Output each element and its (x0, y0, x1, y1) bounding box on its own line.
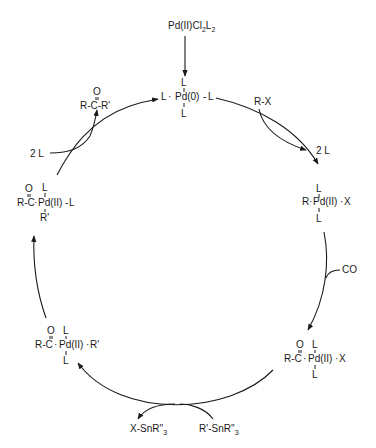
svg-text:·: · (335, 353, 338, 364)
precatalyst-label: Pd(II)Cl2L2 (168, 20, 215, 33)
stannane-exit-arrow (138, 404, 175, 419)
svg-text:Pd(II): Pd(II) (59, 339, 83, 350)
stannane-entry-line (180, 404, 213, 419)
svg-text:Pd(II): Pd(II) (313, 196, 337, 207)
svg-text:·: · (340, 196, 343, 207)
pd0-complex: L L · Pd(0) - L L (161, 77, 214, 119)
product-release-arrow (50, 110, 97, 153)
svg-text:L: L (181, 108, 187, 119)
ketone-product: O R-C-R' (80, 86, 110, 111)
svg-text:L: L (63, 355, 69, 366)
oxidative-addition-arrow (216, 98, 318, 164)
rx-entry-arrow (259, 109, 306, 150)
ligand-in-label: 2 L (30, 148, 44, 159)
svg-text:L: L (69, 197, 75, 208)
svg-text:L: L (316, 183, 322, 194)
svg-text:O: O (47, 325, 55, 336)
svg-text:-: - (203, 91, 206, 102)
svg-text:R': R' (90, 339, 99, 350)
acyl-palladium-halide: O L R-C · Pd(II) · X L (284, 339, 346, 380)
acyl-palladium-isomer: O L R-C · Pd(II) - L R' (17, 182, 75, 223)
svg-text:·: · (303, 353, 306, 364)
svg-text:L: L (312, 369, 318, 380)
co-entry-line (326, 270, 340, 278)
svg-text:·: · (309, 196, 312, 207)
svg-text:O: O (93, 86, 101, 97)
svg-text:L: L (312, 339, 318, 350)
svg-text:R'-SnR''3: R'-SnR''3 (199, 423, 239, 436)
svg-text:L: L (181, 77, 187, 88)
catalytic-cycle-diagram: Pd(II)Cl2L2 L L · Pd(0) - L L R-X 2 L L … (0, 0, 376, 448)
ligand-out-label: 2 L (316, 145, 330, 156)
acyl-palladium-alkyl: O L R-C · Pd(II) · R' L (35, 325, 99, 366)
svg-text:·: · (34, 197, 37, 208)
oxidative-addition-complex: L R · Pd(II) · X L (302, 183, 351, 224)
svg-text:R-C: R-C (35, 339, 53, 350)
co-insertion-arrow (308, 232, 327, 330)
isomerization-arrow (34, 236, 46, 318)
svg-text:·: · (168, 91, 171, 102)
svg-text:·: · (54, 339, 57, 350)
svg-text:R-C: R-C (17, 197, 35, 208)
svg-text:O: O (296, 339, 304, 350)
transmetallation-arrow (78, 363, 273, 405)
svg-text:L: L (161, 91, 167, 102)
svg-text:X: X (344, 196, 351, 207)
svg-text:R-C-R': R-C-R' (80, 100, 110, 111)
svg-text:Pd(II): Pd(II) (308, 353, 332, 364)
svg-text:X: X (339, 353, 346, 364)
svg-text:L: L (42, 182, 48, 193)
svg-text:·: · (86, 339, 89, 350)
svg-text:L: L (316, 213, 322, 224)
stannane-in-label: R'-SnR''3 (199, 423, 239, 436)
svg-text:O: O (25, 183, 33, 194)
svg-text:L: L (63, 325, 69, 336)
svg-text:X-SnR''3: X-SnR''3 (130, 423, 167, 436)
svg-text:L: L (208, 91, 214, 102)
svg-text:Pd(II)Cl2L2: Pd(II)Cl2L2 (168, 20, 215, 33)
svg-text:R': R' (40, 212, 49, 223)
co-reagent: CO (342, 264, 357, 275)
svg-text:Pd(II): Pd(II) (38, 197, 62, 208)
stannane-out-label: X-SnR''3 (130, 423, 167, 436)
svg-text:R-C: R-C (284, 353, 302, 364)
svg-text:-: - (65, 197, 68, 208)
rx-reagent: R-X (254, 96, 272, 107)
svg-text:Pd(0): Pd(0) (175, 91, 199, 102)
